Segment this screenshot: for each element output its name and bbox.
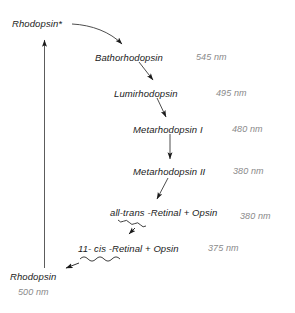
wavelength-rhodopsin: 500 nm (18, 287, 49, 297)
arrow-all-trans-to-eleven-cis-head (129, 228, 135, 234)
node-label-all-trans-retinal-opsin: all-trans -Retinal + Opsin (110, 207, 217, 218)
node-label-metarhodopsin-i: Metarhodopsin I (133, 124, 203, 135)
wavelength-metarhodopsin-i: 480 nm (232, 124, 263, 134)
arrow-lumirhodopsin-to-metarhodopsin-i (157, 98, 166, 117)
wavelength-eleven-cis-retinal-opsin: 375 nm (208, 243, 239, 253)
wavelength-bathorhodopsin: 545 nm (196, 52, 227, 62)
arrow-rhodopsin-excited-to-bathorhodopsin (72, 24, 122, 44)
arrow-all-trans-to-eleven-cis-wavy (118, 220, 146, 227)
node-label-rhodopsin: Rhodopsin (10, 271, 56, 282)
arrow-eleven-cis-to-rhodopsin-wavy (80, 257, 120, 261)
wavelength-lumirhodopsin: 495 nm (216, 88, 247, 98)
wavelength-metarhodopsin-ii: 380 nm (233, 166, 264, 176)
arrow-eleven-cis-to-rhodopsin-head (66, 263, 79, 268)
arrow-layer (0, 0, 295, 313)
node-label-rhodopsin-excited: Rhodopsin* (12, 18, 62, 29)
node-label-bathorhodopsin: Bathorhodopsin (95, 52, 163, 63)
node-label-lumirhodopsin: Lumirhodopsin (114, 88, 178, 99)
wavelength-all-trans-retinal-opsin: 380 nm (240, 211, 271, 221)
rhodopsin-cascade-diagram: Rhodopsin* Bathorhodopsin 545 nm Lumirho… (0, 0, 295, 313)
arrow-metarhodopsin-ii-to-all-trans (157, 178, 168, 199)
node-label-eleven-cis-retinal-opsin: 11- cis -Retinal + Opsin (78, 243, 179, 254)
node-label-metarhodopsin-ii: Metarhodopsin II (133, 166, 205, 177)
arrow-bathorhodopsin-to-lumirhodopsin (139, 62, 153, 80)
